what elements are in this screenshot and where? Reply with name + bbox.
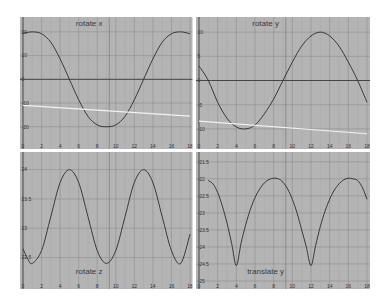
vertical-divider: [193, 15, 196, 290]
panel-rotate-x: 02468101214161820100-10-20rotate x: [20, 17, 193, 149]
horizontal-divider: [18, 149, 370, 152]
x-tick-label: 18: [187, 283, 193, 289]
y-tick-label: -5: [198, 102, 203, 108]
x-tick-label: 10: [113, 143, 119, 149]
x-tick-label: 4: [59, 283, 62, 289]
y-tick-label: 10: [198, 29, 204, 35]
x-tick-label: 18: [187, 143, 193, 149]
x-tick-label: 2: [216, 143, 219, 149]
x-tick-label: 6: [77, 143, 80, 149]
x-tick-label: 8: [96, 283, 99, 289]
x-tick-label: 10: [113, 283, 119, 289]
panel-rotate-y: 0246810121416181050-5-10rotate y: [196, 17, 370, 149]
y-tick-label: 20: [22, 29, 28, 35]
panel-rotate-z: 0246810121416182423.52322.5rotate z: [20, 152, 193, 289]
x-tick-label: 12: [132, 283, 138, 289]
panel-title-rotate-x: rotate x: [76, 19, 103, 28]
animation-curves-figure: 02468101214161820100-10-20rotate x 02468…: [0, 0, 387, 301]
x-tick-label: 18: [364, 283, 370, 289]
x-tick-label: 12: [308, 143, 314, 149]
x-tick-label: 2: [40, 283, 43, 289]
x-tick-label: 8: [96, 143, 99, 149]
y-tick-label: 24: [22, 166, 28, 172]
x-tick-label: 8: [272, 283, 275, 289]
x-tick-label: 14: [327, 283, 333, 289]
panel-title-translate-y: translate y: [247, 267, 284, 276]
x-tick-label: 2: [40, 143, 43, 149]
x-tick-label: 10: [290, 283, 296, 289]
x-tick-label: 8: [272, 143, 275, 149]
x-tick-label: 4: [59, 143, 62, 149]
panel-title-rotate-z: rotate z: [76, 267, 103, 276]
x-tick-label: 6: [254, 283, 257, 289]
x-tick-label: 16: [169, 283, 175, 289]
x-tick-label: 14: [150, 143, 156, 149]
x-tick-label: 18: [364, 143, 370, 149]
x-tick-label: 6: [254, 143, 257, 149]
x-tick-label: 10: [290, 143, 296, 149]
x-tick-label: 6: [77, 283, 80, 289]
x-tick-label: 16: [169, 143, 175, 149]
x-tick-label: 4: [235, 283, 238, 289]
x-tick-label: 16: [346, 143, 352, 149]
panel-title-rotate-y: rotate y: [252, 19, 279, 28]
x-tick-label: 12: [308, 283, 314, 289]
x-tick-label: 16: [346, 283, 352, 289]
panel-translate-y: 024681012141618-21.5-22-22.5-23-23.5-24-…: [196, 152, 370, 289]
y-tick-label: 23: [22, 225, 28, 231]
x-tick-label: 14: [150, 283, 156, 289]
x-tick-label: 2: [216, 283, 219, 289]
x-tick-label: 4: [235, 143, 238, 149]
x-tick-label: 12: [132, 143, 138, 149]
y-tick-label: 10: [22, 52, 28, 58]
x-tick-label: 14: [327, 143, 333, 149]
